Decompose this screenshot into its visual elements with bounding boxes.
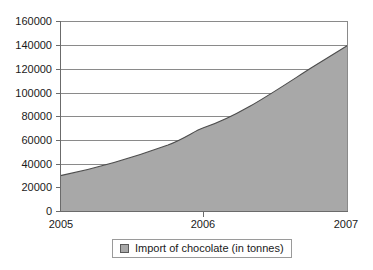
series-import-of-chocolate [61,46,348,212]
y-tick-label-120000: 120000 [15,63,52,75]
y-tick-label-40000: 40000 [21,158,52,170]
legend-item-label: Import of chocolate (in tonnes) [135,243,284,254]
y-tick-labels: 160000 140000 120000 100000 80000 60000 … [15,15,52,217]
y-tick-label-20000: 20000 [21,181,52,193]
y-tick-label-140000: 140000 [15,39,52,51]
chart-legend: Import of chocolate (in tonnes) [112,239,292,258]
y-tick-label-0: 0 [46,205,52,217]
legend-square-icon [120,244,129,253]
area-fill [61,46,348,212]
legend-swatch-fill [121,245,128,252]
x-tick-label-2006: 2006 [191,218,215,230]
y-tick-label-60000: 60000 [21,134,52,146]
y-tick-label-160000: 160000 [15,15,52,27]
area-chart-plot: 160000 140000 120000 100000 80000 60000 … [0,0,373,270]
y-tick-marks [56,22,61,212]
x-tick-label-2005: 2005 [49,218,73,230]
y-tick-label-100000: 100000 [15,87,52,99]
y-tick-label-80000: 80000 [21,110,52,122]
x-tick-labels: 2005 2006 2007 [49,218,358,230]
x-tick-label-2007: 2007 [334,218,358,230]
chart-figure: 160000 140000 120000 100000 80000 60000 … [0,0,373,270]
